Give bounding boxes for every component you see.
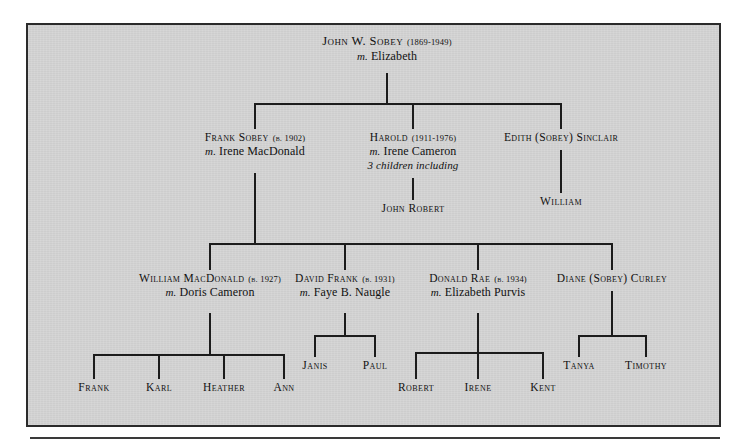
connector-v-john-robert [412,178,414,200]
node-dates: (1869-1949) [407,37,452,47]
node-irene[interactable]: Irene [465,380,492,394]
node-name-text: Frank Sobey [205,131,269,143]
connector-v-dr-down [477,313,479,352]
connector-v-paul [374,335,376,357]
node-name-text: Irene [465,380,492,394]
connector-v-robert [415,352,417,379]
marriage-marker: m. [205,145,216,157]
node-paul[interactable]: Paul [363,358,388,372]
node-note: 3 children including [368,159,459,172]
connector-v-john-w [386,73,388,103]
connector-v-heather [223,354,225,379]
node-john-robert[interactable]: John Robert [381,201,444,215]
connector-bus-diane-children [578,335,645,337]
marriage-marker: m. [300,286,311,298]
connector-v-frank-child [93,354,95,379]
node-name-text: John Robert [381,201,444,215]
node-name-text: Janis [302,358,327,372]
marriage-marker: m. [357,50,368,62]
node-timothy[interactable]: Timothy [625,358,667,372]
node-name-text: Harold [370,131,408,143]
connector-v-karl [158,354,160,379]
node-heather[interactable]: Heather [203,380,245,394]
node-edith-sinclair[interactable]: Edith (Sobey) Sinclair [504,130,618,144]
connector-bus-gen3 [209,243,611,245]
node-ann[interactable]: Ann [273,380,294,394]
node-dates: (b. 1931) [362,274,395,284]
node-spouse: m. Elizabeth [322,49,452,64]
node-diane-curley[interactable]: Diane (Sobey) Curley [557,271,667,285]
connector-v-timothy [645,335,647,357]
connector-v-william-leaf [560,150,562,193]
node-name-text: Frank [78,380,109,394]
marriage-marker: m. [431,286,442,298]
connector-v-diane [611,243,613,270]
node-name: William MacDonald(b. 1927) [139,271,281,285]
node-name-text: Kent [530,380,556,394]
node-dates: (b. 1934) [494,274,527,284]
node-name: Edith (Sobey) Sinclair [504,130,618,144]
node-karl[interactable]: Karl [146,380,172,394]
node-name-text: Robert [398,380,434,394]
connector-v-df-down [344,313,346,335]
spouse-name: Elizabeth [371,49,417,63]
footer-divider [30,437,720,439]
node-john-w-sobey[interactable]: John W. Sobey(1869-1949) m. Elizabeth [322,34,452,64]
node-tanya[interactable]: Tanya [563,358,595,372]
connector-v-frank [254,103,256,129]
node-dates: (b. 1902) [273,133,306,143]
connector-v-kent [542,352,544,379]
connector-v-david-frank [344,243,346,270]
node-spouse: m. Faye B. Naugle [295,285,395,300]
connector-v-frank-down [254,173,256,243]
node-name-text: Timothy [625,358,667,372]
node-name: Harold(1911-1976) [368,130,459,144]
node-dates: (1911-1976) [412,133,456,143]
node-name-text: Tanya [563,358,595,372]
node-name: Donald Rae(b. 1934) [429,271,527,285]
node-name-text: William [540,194,582,208]
node-william-macdonald[interactable]: William MacDonald(b. 1927) m. Doris Came… [139,271,281,300]
connector-v-irene [477,352,479,379]
connector-v-harold [412,103,414,129]
connector-bus-wm-children [93,354,285,356]
node-name: Frank Sobey(b. 1902) [205,130,306,144]
connector-v-wm-down [209,313,211,354]
spouse-name: Elizabeth Purvis [445,285,526,299]
spouse-name: Irene Cameron [384,144,457,158]
node-donald-rae[interactable]: Donald Rae(b. 1934) m. Elizabeth Purvis [429,271,527,300]
node-frank-child[interactable]: Frank [78,380,109,394]
page-canvas: John W. Sobey(1869-1949) m. Elizabeth Fr… [0,0,746,444]
node-name-text: Ann [273,380,294,394]
node-dates: (b. 1927) [248,274,281,284]
node-name: John W. Sobey(1869-1949) [322,34,452,49]
spouse-name: Faye B. Naugle [314,285,390,299]
node-kent[interactable]: Kent [530,380,556,394]
connector-v-ann [283,354,285,379]
node-harold[interactable]: Harold(1911-1976) m. Irene Cameron 3 chi… [368,130,459,172]
node-david-frank[interactable]: David Frank(b. 1931) m. Faye B. Naugle [295,271,395,300]
spouse-name: Doris Cameron [180,285,255,299]
connector-bus-df-children [314,335,376,337]
connector-v-donald-rae [477,243,479,270]
connector-bus-gen2 [254,103,562,105]
node-spouse: m. Irene MacDonald [205,144,306,159]
node-name-text: Heather [203,380,245,394]
chart-plate: John W. Sobey(1869-1949) m. Elizabeth Fr… [26,23,721,427]
node-name-text: Diane (Sobey) Curley [557,272,667,284]
node-janis[interactable]: Janis [302,358,327,372]
node-name-text: Donald Rae [429,272,490,284]
connector-bus-dr-children [415,352,543,354]
marriage-marker: m. [370,145,381,157]
node-name: Diane (Sobey) Curley [557,271,667,285]
node-name-text: Edith (Sobey) Sinclair [504,131,618,143]
node-frank-sobey[interactable]: Frank Sobey(b. 1902) m. Irene MacDonald [205,130,306,159]
node-robert[interactable]: Robert [398,380,434,394]
connector-v-tanya [578,335,580,357]
node-name: David Frank(b. 1931) [295,271,395,285]
connector-v-edith [560,103,562,129]
connector-v-william-macdonald [209,243,211,270]
node-spouse: m. Elizabeth Purvis [429,285,527,300]
node-spouse: m. Irene Cameron [368,144,459,159]
node-william[interactable]: William [540,194,582,208]
